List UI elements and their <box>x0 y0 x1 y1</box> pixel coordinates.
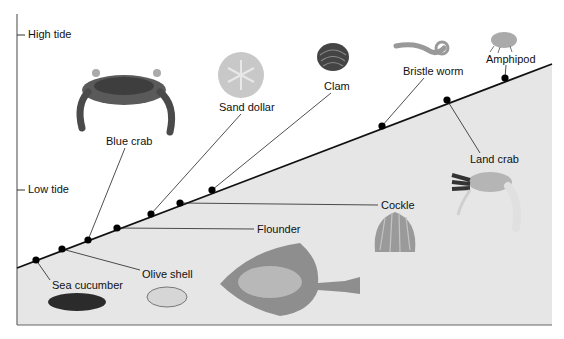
dot-land-crab <box>443 96 450 103</box>
bristle-worm-image <box>396 42 448 54</box>
high-tide-label: High tide <box>28 28 71 40</box>
label-sea-cucumber: Sea cucumber <box>52 279 123 291</box>
dot-cockle <box>176 199 183 206</box>
dot-sea-cucumber <box>32 256 39 263</box>
label-bristle-worm: Bristle worm <box>403 65 464 77</box>
label-blue-crab: Blue crab <box>106 135 152 147</box>
dot-olive-shell <box>58 245 65 252</box>
dot-amphipod <box>501 74 508 81</box>
label-cockle: Cockle <box>381 199 415 211</box>
label-clam: Clam <box>324 80 350 92</box>
dot-clam <box>208 186 215 193</box>
label-flounder: Flounder <box>257 223 300 235</box>
label-amphipod: Amphipod <box>486 53 536 65</box>
clam-image <box>317 43 349 71</box>
low-tide-label: Low tide <box>28 183 69 195</box>
sea-cucumber-image <box>48 293 106 311</box>
dot-bristle-worm <box>378 122 385 129</box>
sand-dollar-image <box>218 52 264 98</box>
dot-blue-crab <box>84 236 91 243</box>
dot-sand-dollar <box>147 210 154 217</box>
label-olive-shell: Olive shell <box>142 268 193 280</box>
label-sand-dollar: Sand dollar <box>219 101 275 113</box>
label-land-crab: Land crab <box>470 153 519 165</box>
amphipod-image <box>490 32 517 53</box>
blue-crab-image <box>80 69 172 132</box>
olive-shell-image <box>147 287 187 307</box>
dot-flounder <box>113 224 120 231</box>
